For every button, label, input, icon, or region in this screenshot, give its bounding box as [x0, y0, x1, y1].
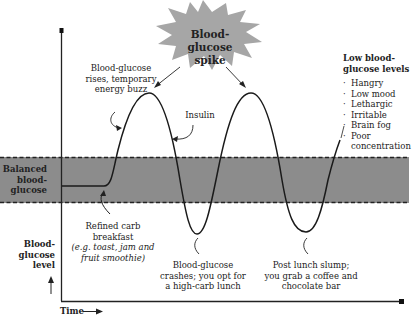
- list-item: Irritable: [343, 110, 417, 121]
- list-item: Hangry: [343, 78, 417, 89]
- rise-pointer-icon: [111, 112, 119, 128]
- breakfast-line2: breakfast: [70, 232, 156, 243]
- x-axis-cap: [399, 299, 404, 304]
- band-label-line3: glucose: [0, 185, 47, 196]
- spike-title-line2: spike: [170, 54, 250, 67]
- crash-annotation: Blood-glucose crashes; you opt for a hig…: [160, 260, 246, 292]
- x-axis-label: Time: [60, 306, 84, 317]
- y-axis-label-line2: glucose: [0, 250, 55, 261]
- insulin-label: Insulin: [180, 110, 220, 121]
- y-axis-cap: [60, 28, 64, 33]
- low-levels-panel: Low blood- glucose levels Hangry Low moo…: [343, 53, 417, 152]
- rise-line1: Blood-glucose: [76, 63, 166, 74]
- crash-line2: crashes; you opt for: [160, 271, 246, 282]
- crash-line1: Blood-glucose: [160, 260, 246, 271]
- list-item: Brain fog: [343, 120, 417, 131]
- y-label-arrow-icon: [48, 276, 54, 283]
- time-arrow-icon: [96, 309, 103, 315]
- slump-annotation: Post lunch slump; you grab a coffee and …: [264, 260, 358, 292]
- slump-line3: chocolate bar: [264, 281, 358, 292]
- rise-line2: rises, temporary: [76, 74, 166, 85]
- low-levels-heading-line1: Low blood-: [343, 53, 417, 64]
- low-levels-heading-line2: glucose levels: [343, 64, 417, 75]
- y-axis-label-line3: level: [0, 260, 55, 271]
- slump-line2: you grab a coffee and: [264, 271, 358, 282]
- breakfast-line1: Refined carb: [70, 221, 156, 232]
- list-item: Lethargic: [343, 99, 417, 110]
- crash-pointer-icon: [195, 238, 199, 254]
- list-item: Low mood: [343, 89, 417, 100]
- crash-line3: a high-carb lunch: [160, 281, 246, 292]
- breakfast-annotation: Refined carb breakfast (e.g. toast, jam …: [70, 221, 156, 263]
- list-item: Poor concentration: [343, 131, 417, 152]
- y-axis-label-line1: Blood-: [0, 239, 55, 250]
- y-axis-label: Blood- glucose level: [0, 239, 55, 271]
- slump-line1: Post lunch slump;: [264, 260, 358, 271]
- spike-title-line1: Blood-glucose: [170, 28, 250, 54]
- band-label-line1: Balanced: [0, 164, 47, 175]
- rise-annotation: Blood-glucose rises, temporary energy bu…: [76, 63, 166, 95]
- band-label-line2: blood-: [0, 175, 47, 186]
- spike-title: Blood-glucose spike: [170, 28, 250, 67]
- breakfast-line3: (e.g. toast, jam and: [70, 242, 156, 253]
- breakfast-line4: fruit smoothie): [70, 253, 156, 264]
- slump-pointer-icon: [304, 238, 308, 254]
- low-levels-heading: Low blood- glucose levels: [343, 53, 417, 74]
- rise-pointer-head-icon: [116, 125, 122, 131]
- low-levels-list: Hangry Low mood Lethargic Irritable Brai…: [343, 78, 417, 152]
- rise-line3: energy buzz: [76, 84, 166, 95]
- balanced-band-label: Balanced blood- glucose: [0, 164, 47, 196]
